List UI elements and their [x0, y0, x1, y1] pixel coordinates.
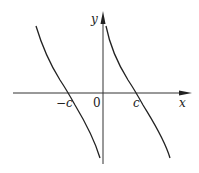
- y-axis: [101, 11, 106, 164]
- y-axis-label: y: [90, 12, 98, 26]
- tick-label-pos-c: c: [133, 96, 140, 110]
- function-graph: y x 0 −c c: [0, 0, 199, 173]
- y-axis-arrow-icon: [101, 11, 106, 24]
- origin-label: 0: [93, 96, 101, 110]
- left-branch-curve: [36, 26, 100, 158]
- x-axis-label: x: [179, 96, 186, 110]
- x-axis-arrow-icon: [179, 91, 192, 96]
- right-branch-curve: [106, 26, 170, 158]
- tick-label-neg-c: −c: [56, 96, 73, 110]
